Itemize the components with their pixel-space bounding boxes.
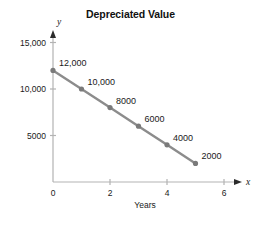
data-series-line <box>53 70 196 163</box>
y-axis-variable-label: y <box>56 17 62 27</box>
x-axis-arrowhead <box>234 179 242 185</box>
data-point-value-label: 4000 <box>173 133 193 143</box>
y-tick-label: 15,000 <box>20 38 46 48</box>
data-point-value-label: 6000 <box>145 114 165 124</box>
y-tick-label: 5000 <box>27 131 46 141</box>
data-point-value-label: 10,000 <box>88 77 116 87</box>
x-axis-title: Years <box>134 200 155 210</box>
data-point-marker <box>193 161 198 166</box>
data-point-marker <box>136 124 141 129</box>
data-point-marker <box>50 68 55 73</box>
x-axis: x <box>53 177 251 187</box>
y-tick-label: 10,000 <box>20 84 46 94</box>
x-tick-label: 2 <box>108 188 113 198</box>
x-tick-label: 0 <box>51 188 56 198</box>
data-point-marker <box>107 105 112 110</box>
x-tick-label: 6 <box>222 188 227 198</box>
data-point-labels: 12,00010,0008000600040002000 <box>59 58 222 161</box>
chart-plot-area: y x 500010,00015,000 0246 Dollars Years … <box>0 0 261 229</box>
data-point-value-label: 12,000 <box>59 58 87 68</box>
data-point-value-label: 2000 <box>202 151 222 161</box>
x-axis-variable-label: x <box>245 177 251 187</box>
y-axis-ticks: 500010,00015,000 <box>20 38 56 141</box>
y-axis-arrowhead <box>50 30 56 38</box>
depreciated-value-chart: Depreciated Value y x 500010,00015,000 0… <box>0 0 261 229</box>
data-point-marker <box>79 86 84 91</box>
data-point-value-label: 8000 <box>116 96 136 106</box>
y-axis: y <box>50 17 62 182</box>
data-point-marker <box>164 142 169 147</box>
x-tick-label: 4 <box>165 188 170 198</box>
